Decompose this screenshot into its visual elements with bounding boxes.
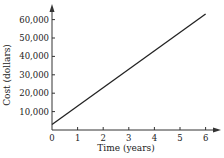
x-axis-arrow-icon <box>213 128 221 133</box>
y-tick-label: 60,000 <box>19 15 49 25</box>
x-tick-label: 4 <box>152 133 157 143</box>
x-tick-label: 1 <box>75 133 80 143</box>
y-axis-label: Cost (dollars) <box>2 44 12 106</box>
x-axis-label: Time (years) <box>97 143 154 153</box>
y-tick-label: 20,000 <box>19 88 49 98</box>
x-tick-label: 0 <box>49 133 54 143</box>
y-tick-label: 30,000 <box>19 70 49 80</box>
y-axis-arrow-icon <box>50 4 55 12</box>
y-ticks: 10,00020,00030,00040,00050,00060,000 <box>19 15 55 117</box>
y-tick-label: 40,000 <box>19 51 49 61</box>
chart: 10,00020,00030,00040,00050,00060,000 012… <box>0 0 224 158</box>
cost-line <box>52 14 206 124</box>
x-tick-label: 6 <box>203 133 208 143</box>
y-tick-label: 10,000 <box>19 107 49 117</box>
x-tick-label: 3 <box>126 133 131 143</box>
x-tick-label: 2 <box>100 133 105 143</box>
x-ticks: 0123456 <box>49 127 208 143</box>
y-tick-label: 50,000 <box>19 33 49 43</box>
x-tick-label: 5 <box>177 133 182 143</box>
